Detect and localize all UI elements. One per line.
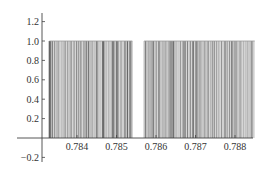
y-tick-label: 0.6 [27,74,40,85]
bar-segment-0 [49,41,132,138]
y-tick-label: 0.4 [27,94,40,105]
bars-group [49,41,254,138]
x-tick-label: 0.788 [224,141,247,152]
y-tick-label: −0.2 [21,152,39,163]
x-tick-label: 0.786 [145,141,168,152]
x-tick-label: 0.785 [105,141,128,152]
y-tick-label: 1.2 [27,16,40,27]
y-tick-label: 0.8 [27,55,40,66]
x-tick-label: 0.787 [184,141,207,152]
chart-canvas: 0.7840.7850.7860.7870.788−0.20.20.40.60.… [0,0,267,171]
y-tick-label: 1.0 [27,36,40,47]
y-tick-label: 0.2 [27,113,40,124]
x-tick-label: 0.784 [66,141,89,152]
